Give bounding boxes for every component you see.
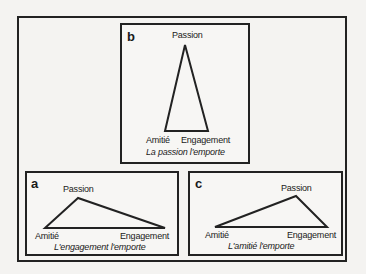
panel-a: a Passion Amitié Engagement L'engagement… (25, 171, 179, 256)
vertex-label-amitie: Amitié (205, 230, 229, 240)
panel-caption: L'amitié l'emporte (228, 241, 294, 251)
panel-caption: La passion l'emporte (146, 147, 225, 157)
vertex-label-engagement: Engagement (287, 230, 336, 240)
vertex-label-engagement: Engagement (181, 135, 230, 145)
panel-caption: L'engagement l'emporte (54, 242, 146, 252)
panel-c: c Passion Amitié Engagement L'amitié l'e… (188, 171, 343, 256)
vertex-label-engagement: Engagement (120, 231, 169, 241)
vertex-label-amitie: Amitié (146, 135, 170, 145)
vertex-label-amitie: Amitié (35, 231, 59, 241)
panel-b: b Passion Amitié Engagement La passion l… (120, 23, 250, 164)
